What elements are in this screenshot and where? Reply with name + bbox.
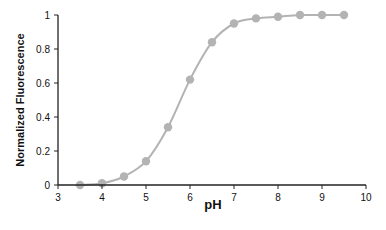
chart: 345678910 00.20.40.60.81 pH Normalized F… — [0, 0, 386, 230]
data-point-marker — [208, 38, 216, 46]
data-point-marker — [164, 123, 172, 131]
y-ticks: 00.20.40.60.81 — [36, 10, 58, 191]
data-point-marker — [340, 11, 348, 19]
x-tick-label: 3 — [55, 192, 61, 203]
x-tick-label: 9 — [319, 192, 325, 203]
y-tick-label: 0.4 — [36, 112, 50, 123]
data-point-marker — [120, 172, 128, 180]
data-series — [76, 11, 348, 189]
x-tick-label: 7 — [231, 192, 237, 203]
x-tick-label: 6 — [187, 192, 193, 203]
x-axis-title: pH — [204, 197, 221, 212]
data-point-marker — [186, 75, 194, 83]
x-tick-label: 8 — [275, 192, 281, 203]
x-tick-label: 10 — [360, 192, 372, 203]
y-tick-label: 0.6 — [36, 78, 50, 89]
data-point-marker — [296, 11, 304, 19]
y-tick-label: 0.8 — [36, 44, 50, 55]
data-point-marker — [230, 19, 238, 27]
data-point-marker — [252, 14, 260, 22]
y-tick-label: 0.2 — [36, 146, 50, 157]
y-axis-title: Normalized Fluorescence — [14, 33, 26, 166]
y-tick-label: 0 — [44, 180, 50, 191]
data-point-marker — [142, 157, 150, 165]
data-point-marker — [318, 11, 326, 19]
data-point-marker — [274, 13, 282, 21]
x-tick-label: 4 — [99, 192, 105, 203]
y-tick-label: 1 — [44, 10, 50, 21]
x-tick-label: 5 — [143, 192, 149, 203]
